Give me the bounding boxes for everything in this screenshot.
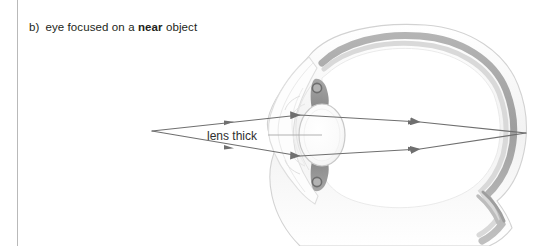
eye-diagram: lens thick	[0, 0, 537, 246]
ciliary-muscle-dot-upper	[312, 83, 321, 92]
lens-thick-label: lens thick	[207, 129, 258, 143]
figure-page: b)eye focused on a near object	[0, 0, 537, 246]
ciliary-muscle-dot-lower	[312, 177, 321, 186]
